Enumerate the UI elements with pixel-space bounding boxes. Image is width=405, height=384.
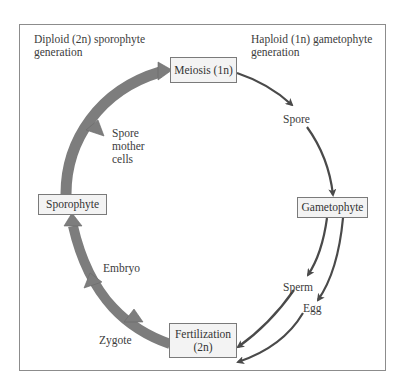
sporophyte-node: Sporophyte [38,194,107,215]
fertilization-node: Fertilization (2n) [169,323,237,358]
arrow-gametophyte-to-sperm [308,218,327,275]
life-cycle-diagram: Diploid (2n) sporophyte generation Haplo… [0,0,405,384]
gametophyte-node: Gametophyte [297,197,368,218]
sperm-label: Sperm [283,281,313,294]
arrow-sperm-to-fertilization [238,290,294,347]
thick-arrow-fertilization-to-sporophyte [64,213,170,344]
meiosis-node: Meiosis (1n) [170,57,237,83]
diploid-generation-label: Diploid (2n) sporophyte generation [34,33,145,59]
zygote-label: Zygote [99,334,132,347]
spore-label: Spore [283,113,310,126]
arrow-gametophyte-to-egg [318,218,343,300]
arrow-meiosis-to-spore [237,73,292,105]
haploid-generation-label: Haploid (1n) gametophyte generation [251,33,372,59]
egg-label: Egg [303,302,322,315]
embryo-label: Embryo [103,262,140,275]
arrow-spore-to-gametophyte [307,127,333,195]
spore-mother-cells-label: Spore mother cells [112,127,145,166]
